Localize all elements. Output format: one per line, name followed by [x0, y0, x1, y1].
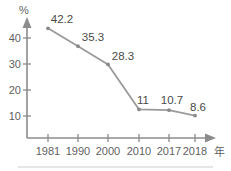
data-point-2010 [137, 108, 141, 112]
x-tick-label-1990: 1990 [66, 145, 90, 157]
y-tick-label-10: 10 [9, 110, 21, 122]
data-label-2010: 11 [137, 94, 149, 106]
y-tick-label-30: 30 [9, 58, 21, 70]
line-chart-figure: 40 30 20 10 % 1981 1990 2000 2010 2017 2… [0, 0, 231, 171]
data-point-labels: 42.2 35.3 28.3 11 10.7 8.6 [51, 13, 206, 113]
x-tick-label-1981: 1981 [36, 145, 60, 157]
y-axis-tick-labels: 40 30 20 10 [9, 32, 21, 122]
x-axis-title: 年 [214, 145, 225, 158]
y-tick-label-40: 40 [9, 32, 21, 44]
chart-canvas: 40 30 20 10 % 1981 1990 2000 2010 2017 2… [0, 0, 231, 171]
data-label-1981: 42.2 [51, 13, 73, 25]
x-tick-label-2010: 2010 [127, 145, 151, 157]
data-label-2000: 28.3 [112, 50, 134, 62]
x-axis-tick-labels: 1981 1990 2000 2010 2017 2018 [36, 145, 207, 157]
data-point-1990 [76, 44, 80, 48]
x-tick-label-2017: 2017 [157, 145, 181, 157]
data-point-2017 [167, 108, 171, 112]
x-tick-label-2000: 2000 [96, 145, 120, 157]
data-point-1981 [46, 26, 50, 30]
data-label-2018: 8.6 [190, 101, 206, 113]
x-axis [27, 134, 216, 143]
data-point-2000 [106, 63, 110, 67]
data-label-2017: 10.7 [161, 94, 183, 106]
data-point-2018 [193, 114, 197, 118]
y-axis-arrowhead [23, 17, 32, 28]
y-tick-label-20: 20 [9, 84, 21, 96]
y-axis [23, 17, 32, 138]
data-label-1990: 35.3 [82, 31, 104, 43]
x-tick-label-2018: 2018 [183, 145, 207, 157]
x-axis-arrowhead [205, 134, 216, 143]
y-axis-title: % [19, 4, 29, 16]
